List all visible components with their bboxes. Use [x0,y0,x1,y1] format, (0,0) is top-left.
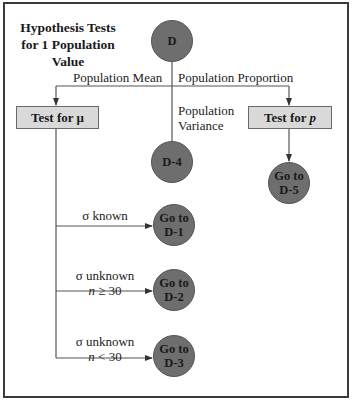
node-d2-line-1: Go to [159,276,189,290]
branch-label-population-mean: Population Mean [73,70,162,85]
unknown-small-line-2: n < 30 [65,349,145,364]
root-node-label: D [167,34,176,48]
branch-label-population-proportion: Population Proportion [178,70,293,85]
node-d5-line-2: D-5 [279,183,298,197]
node-d2-line-2: D-2 [164,290,183,304]
unknown-small-line-1: σ unknown [65,334,145,349]
node-go-to-d5: Go to D-5 [268,162,310,204]
test-mu-prefix: Test for [31,110,77,126]
diagram-title: Hypothesis Tests for 1 Population Value [12,19,124,70]
node-d3-line-1: Go to [159,342,189,356]
test-for-p-box: Test for p [248,106,332,129]
condition-sigma-unknown-large-n: σ unknown n ≥ 30 [65,268,145,298]
variance-line-1: Population [178,103,234,118]
test-for-mu-box: Test for μ [16,106,99,129]
node-go-to-d3: Go to D-3 [153,335,195,377]
n-op: ≥ 30 [95,283,122,298]
node-d4: D-4 [151,141,193,183]
unknown-large-line-1: σ unknown [65,268,145,283]
title-line-2: for 1 Population [12,36,124,53]
branch-label-population-variance: Population Variance [178,103,234,133]
title-line-1: Hypothesis Tests [12,19,124,36]
node-d4-label: D-4 [162,155,181,169]
node-d1-line-1: Go to [159,211,189,225]
node-d1-line-2: D-1 [164,225,183,239]
node-go-to-d1: Go to D-1 [153,204,195,246]
variance-line-2: Variance [178,118,234,133]
mu-symbol: μ [77,110,84,126]
condition-sigma-known: σ known [70,208,140,223]
node-d5-line-1: Go to [274,169,304,183]
node-go-to-d2: Go to D-2 [153,269,195,311]
node-d3-line-2: D-3 [164,356,183,370]
condition-sigma-unknown-small-n: σ unknown n < 30 [65,334,145,364]
test-p-prefix: Test for [264,110,310,126]
n-op: < 30 [95,349,122,364]
root-node-d: D [151,20,193,62]
p-symbol: p [310,110,317,126]
title-line-3: Value [12,53,124,70]
unknown-large-line-2: n ≥ 30 [65,283,145,298]
